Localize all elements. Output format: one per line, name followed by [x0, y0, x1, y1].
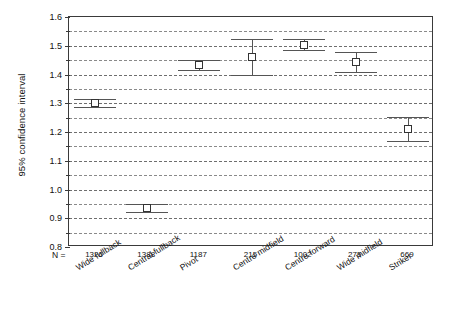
ci-cap-lower [283, 50, 325, 51]
gridline-major [69, 103, 432, 104]
ci-mean-marker [352, 58, 360, 66]
gridline-minor [69, 233, 432, 234]
y-tick-label: 1.1 [49, 156, 62, 166]
gridline-major [69, 161, 432, 162]
y-tick-major [65, 75, 70, 76]
gridline-major [69, 218, 432, 219]
gridline-major [69, 190, 432, 191]
gridline-minor [69, 118, 432, 119]
y-tick-major [65, 161, 70, 162]
ci-cap-upper [335, 52, 377, 53]
y-tick-label: 1.0 [49, 185, 62, 195]
ci-mean-marker [195, 61, 203, 69]
chart-figure: 95% confidence interval 0.80.91.01.11.21… [0, 0, 461, 310]
gridline-minor [69, 146, 432, 147]
ci-cap-lower [74, 107, 116, 108]
gridline-major [69, 46, 432, 47]
y-tick-minor [66, 175, 70, 176]
y-tick-label: 1.3 [49, 98, 62, 108]
ci-mean-marker [404, 125, 412, 133]
ci-mean-marker [143, 204, 151, 212]
y-tick-minor [66, 89, 70, 90]
y-tick-major [65, 218, 70, 219]
y-tick-minor [66, 233, 70, 234]
y-tick-minor [66, 118, 70, 119]
y-tick-label: 1.2 [49, 127, 62, 137]
ci-cap-lower [387, 141, 429, 142]
ci-mean-marker [248, 53, 256, 61]
y-tick-minor [66, 146, 70, 147]
ci-mean-marker [300, 41, 308, 49]
y-tick-major [65, 103, 70, 104]
ci-mean-marker [91, 99, 99, 107]
ci-cap-upper [387, 117, 429, 118]
y-tick-label: 0.9 [49, 213, 62, 223]
y-tick-minor [66, 31, 70, 32]
y-tick-major [65, 247, 70, 248]
gridline-major [69, 132, 432, 133]
plot-area: 0.80.91.01.11.21.31.41.51.6 [68, 16, 433, 246]
y-tick-label: 1.5 [49, 41, 62, 51]
y-axis-title: 95% confidence interval [14, 2, 30, 248]
gridline-minor [69, 204, 432, 205]
y-tick-label: 1.6 [49, 12, 62, 22]
ci-cap-upper [231, 39, 273, 40]
gridline-minor [69, 175, 432, 176]
y-tick-major [65, 17, 70, 18]
y-tick-minor [66, 204, 70, 205]
n-prefix-label: N = [52, 250, 65, 260]
gridline-minor [69, 31, 432, 32]
y-tick-major [65, 46, 70, 47]
ci-cap-lower [231, 75, 273, 76]
gridline-minor [69, 89, 432, 90]
y-tick-label: 1.4 [49, 70, 62, 80]
y-tick-major [65, 132, 70, 133]
ci-cap-lower [335, 72, 377, 73]
ci-cap-lower [178, 70, 220, 71]
y-tick-major [65, 190, 70, 191]
y-tick-minor [66, 60, 70, 61]
